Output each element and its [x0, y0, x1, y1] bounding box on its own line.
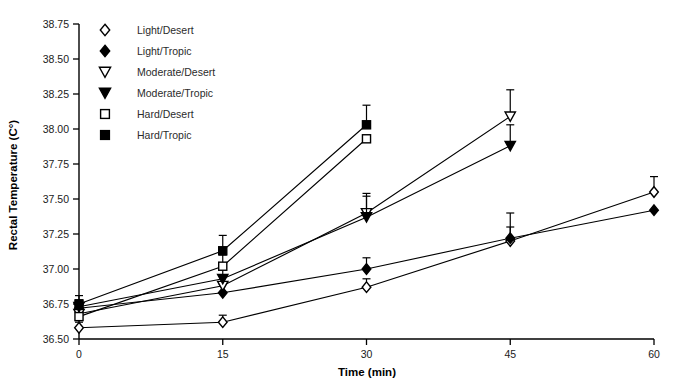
legend-marker-filled-square [101, 131, 110, 140]
data-point [362, 121, 370, 129]
x-axis-title: Time (min) [338, 366, 396, 378]
y-axis-tick-label: 37.50 [43, 193, 69, 205]
x-axis-tick-label: 0 [76, 348, 82, 360]
y-axis-tick-label: 38.25 [43, 88, 69, 100]
series-group [74, 90, 658, 333]
marker-shape [362, 121, 370, 129]
y-axis-tick-label: 37.25 [43, 228, 69, 240]
marker-shape [361, 213, 371, 222]
x-axis-tick-label: 15 [217, 348, 229, 360]
legend-item-label: Light/Tropic [137, 45, 191, 57]
series-line [79, 116, 510, 313]
legend-item: Moderate/Tropic [99, 87, 213, 99]
legend-item-label: Hard/Tropic [137, 129, 191, 141]
legend-group: Light/DesertLight/TropicModerate/DesertM… [99, 24, 215, 141]
data-point [362, 264, 371, 275]
marker-shape [75, 323, 84, 334]
data-point [75, 300, 83, 308]
series-line [79, 146, 510, 307]
x-axis-tick-label: 30 [361, 348, 373, 360]
data-point [361, 213, 371, 222]
legend-marker-open-triangle-down [99, 67, 110, 77]
data-point [75, 313, 83, 321]
y-axis-tick-label: 36.50 [43, 333, 69, 345]
marker-shape [362, 135, 370, 143]
marker-shape [362, 264, 371, 275]
data-point [75, 323, 84, 334]
chart-canvas: 36.5036.7537.0037.2537.5037.7538.0038.25… [0, 0, 678, 385]
data-point [505, 141, 515, 150]
y-axis-tick-label: 36.75 [43, 298, 69, 310]
y-axis-tick-label: 38.50 [43, 53, 69, 65]
marker-shape [218, 317, 227, 328]
marker-shape [100, 24, 109, 36]
x-axis-tick-label: 60 [648, 348, 660, 360]
marker-shape [362, 282, 371, 293]
data-point [650, 205, 659, 216]
y-axis-tick-label: 38.75 [43, 18, 69, 30]
legend-item: Light/Desert [100, 24, 193, 36]
data-point [362, 135, 370, 143]
data-point [650, 187, 659, 198]
y-axis-title: Rectal Temperature (C°) [7, 120, 19, 250]
data-point [505, 112, 515, 121]
data-point [362, 282, 371, 293]
y-axis-tick-label: 38.00 [43, 123, 69, 135]
marker-shape [101, 131, 110, 140]
x-axis-tick-label: 45 [504, 348, 516, 360]
y-axis-tick-label: 37.75 [43, 158, 69, 170]
marker-shape [219, 262, 227, 270]
chart-figure: 36.5036.7537.0037.2537.5037.7538.0038.25… [0, 0, 678, 385]
legend-item: Moderate/Desert [99, 66, 215, 78]
marker-shape [101, 110, 110, 119]
marker-shape [99, 67, 110, 77]
marker-shape [505, 141, 515, 150]
y-axis-tick-label: 37.00 [43, 263, 69, 275]
legend-item: Hard/Desert [101, 108, 194, 120]
legend-item: Hard/Tropic [101, 129, 192, 141]
legend-item-label: Moderate/Desert [137, 66, 215, 78]
marker-shape [100, 45, 109, 57]
series-moderate-tropic [74, 125, 516, 312]
legend-item-label: Hard/Desert [137, 108, 194, 120]
legend-item-label: Light/Desert [137, 24, 194, 36]
legend-marker-open-square [101, 110, 110, 119]
marker-shape [75, 300, 83, 308]
series-moderate-desert [74, 90, 516, 319]
data-point [219, 262, 227, 270]
marker-shape [75, 313, 83, 321]
marker-shape [650, 187, 659, 198]
marker-shape [99, 88, 110, 98]
legend-item-label: Moderate/Tropic [137, 87, 213, 99]
legend-marker-filled-triangle-down [99, 88, 110, 98]
data-point [219, 247, 227, 255]
legend-item: Light/Tropic [100, 45, 191, 57]
legend-marker-open-diamond [100, 24, 109, 36]
data-point [218, 317, 227, 328]
marker-shape [219, 247, 227, 255]
marker-shape [650, 205, 659, 216]
axes-group: 36.5036.7537.0037.2537.5037.7538.0038.25… [43, 18, 660, 360]
legend-marker-filled-diamond [100, 45, 109, 57]
marker-shape [505, 112, 515, 121]
